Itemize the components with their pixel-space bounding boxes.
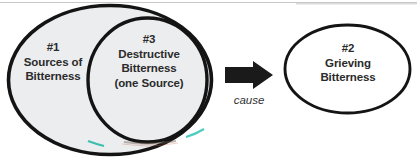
arrow-caption: cause: [219, 94, 279, 106]
label-set-2: #2 Grieving Bitterness: [300, 41, 396, 85]
set-3-number: #3: [101, 32, 197, 47]
label-set-3: #3 Destructive Bitterness (one Source): [101, 32, 197, 90]
set-2-number: #2: [300, 41, 396, 56]
set-3-name-line-2: Bitterness: [101, 61, 197, 76]
set-1-name-line-2: Bitterness: [14, 69, 92, 84]
set-1-number: #1: [14, 40, 92, 55]
set-2-name-line-1: Grieving: [300, 56, 396, 71]
set-3-name-line-1: Destructive: [101, 47, 197, 62]
label-set-1: #1 Sources of Bitterness: [14, 40, 92, 84]
right-block-arrow-icon: [225, 61, 273, 89]
set-1-name-line-1: Sources of: [14, 55, 92, 70]
set-2-name-line-2: Bitterness: [300, 70, 396, 85]
diagram-canvas: #1 Sources of Bitterness #3 Destructive …: [0, 0, 417, 162]
set-3-name-line-3: (one Source): [101, 76, 197, 91]
